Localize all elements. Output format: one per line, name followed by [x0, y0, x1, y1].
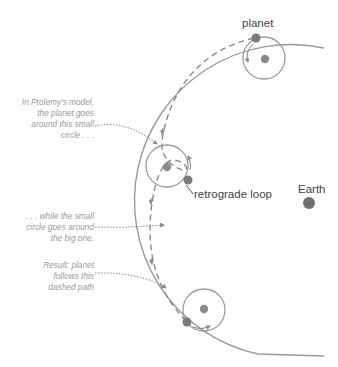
note-epicycle: In Ptolemy's model, the planet goes arou… [4, 97, 94, 141]
leader-epicycle [95, 125, 157, 144]
note-deferent: . . . while the small circle goes around… [4, 211, 94, 244]
dashed-path [150, 38, 254, 322]
planet-dot-top [252, 34, 261, 43]
leader-deferent [95, 225, 164, 227]
planet-dot-middle [184, 176, 193, 185]
epicycle-center-bottom [200, 305, 208, 313]
earth-dot [303, 197, 315, 209]
planet-dot-bottom [183, 318, 192, 327]
epicycle-center-top [261, 55, 269, 63]
note-result: Result: planet follows this dashed path [4, 260, 94, 293]
deferent-circle [134, 44, 324, 356]
planet-label: planet [242, 17, 273, 29]
earth-label: Earth [298, 183, 326, 195]
retrograde-loop-label: retrograde loop [194, 188, 272, 200]
epicycle-center-middle [163, 163, 171, 171]
epicycle-diagram [0, 0, 338, 367]
